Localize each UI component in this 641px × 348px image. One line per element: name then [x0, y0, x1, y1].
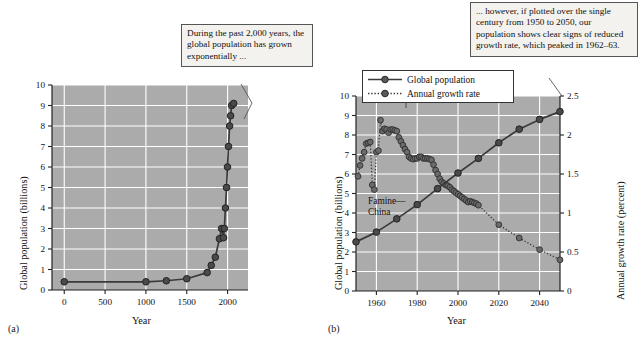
panel-a-y-tick: 2	[40, 244, 45, 254]
panel-b-growth-rate-point	[431, 162, 437, 168]
panel-b-population-point	[536, 116, 543, 123]
panel-b-population-point	[353, 239, 360, 246]
panel-a-y-tick: 0	[40, 285, 45, 295]
panel-a-x-tick: 1000	[137, 297, 156, 307]
panel-a-x-tick: 2000	[218, 297, 237, 307]
panel-a-data-point	[212, 254, 219, 261]
panel-b-x-tick: 2000	[449, 298, 468, 308]
panel-b-y-tick: 5	[344, 189, 349, 199]
panel-b-population-point	[475, 155, 482, 162]
panel-b-growth-rate-point	[496, 222, 502, 228]
panel-b-growth-rate-point	[476, 202, 482, 208]
panel-a-data-point	[227, 112, 234, 119]
callout-panel-a: During the past 2,000 years, the global …	[181, 24, 313, 67]
panel-a-axes: 0123456789100500100015002000	[36, 80, 248, 307]
panel-a-y-axis-title: Global population (billions)	[18, 176, 29, 290]
panel-b-growth-rate-point	[361, 149, 367, 155]
panel-a-y-tick: 1	[40, 265, 45, 275]
panel-b-y2-axis-title: Annual growth rate (percent)	[615, 181, 626, 300]
panel-a-y-tick: 6	[40, 162, 45, 172]
panel-b-population-point	[516, 126, 523, 133]
panel-b-y2-tick: 1	[567, 208, 572, 218]
panel-a-data-point	[204, 269, 211, 276]
panel-b-y-tick: 8	[344, 130, 349, 140]
panel-a-y-tick: 5	[40, 183, 45, 193]
panel-b-growth-rate-point	[537, 247, 543, 253]
famine-line-1: Famine—	[368, 196, 406, 206]
legend-swatch-dotted	[367, 87, 403, 100]
panel-a-data-point	[143, 279, 150, 286]
legend-item-global-population: Global population	[367, 72, 475, 87]
panel-a-x-tick: 500	[98, 297, 112, 307]
panel-b-y-tick: 9	[344, 111, 349, 121]
panel-a-x-tick: 1500	[178, 297, 197, 307]
panel-b-growth-rate-point	[357, 163, 363, 169]
panel-a-x-axis-title: Year	[132, 315, 151, 326]
legend-label-annual-growth-rate: Annual growth rate	[407, 89, 480, 99]
panel-a-y-tick: 10	[36, 80, 46, 90]
panel-a-y-tick: 3	[40, 224, 45, 234]
panel-b-population-point	[557, 108, 564, 115]
panel-b-y-tick: 0	[344, 286, 349, 296]
panel-b-growth-rate-point	[516, 235, 522, 241]
panel-b-y2-tick: 0	[567, 286, 572, 296]
legend-item-annual-growth-rate: Annual growth rate	[367, 86, 480, 101]
panel-b-growth-rate-point	[367, 139, 373, 145]
panel-a-x-tick: 0	[62, 297, 67, 307]
panel-b-growth-rate-point	[355, 173, 361, 179]
panel-b-growth-rate-point	[376, 148, 382, 154]
callout-panel-b: ... however, if plotted over the single …	[470, 2, 638, 57]
panel-a-label: (a)	[8, 323, 19, 334]
panel-b-growth-rate-point	[557, 257, 563, 263]
panel-a-data-point	[230, 100, 237, 107]
panel-a-data-point	[61, 279, 68, 286]
panel-b-population-point	[414, 201, 421, 208]
famine-china-annotation: Famine— China	[368, 196, 406, 218]
panel-a-y-tick: 9	[40, 101, 45, 111]
panel-b-population-point	[373, 229, 380, 236]
panel-b-x-tick: 1960	[367, 298, 386, 308]
legend-label-global-population: Global population	[407, 75, 475, 85]
panel-b-x-tick: 1980	[408, 298, 427, 308]
panel-b-growth-rate-point	[378, 117, 384, 123]
panel-a-data-point	[225, 143, 232, 150]
panel-b-y-axis-title: Global population (billions)	[333, 176, 344, 290]
population-figure: 0123456789100500100015002000 Global popu…	[0, 0, 641, 348]
panel-b-population-point	[496, 140, 503, 147]
panel-a-data-point	[183, 275, 190, 282]
panel-a-data-point	[223, 184, 230, 191]
panel-a-data-point	[221, 225, 228, 232]
famine-line-2: China	[368, 207, 390, 217]
panel-b-x-tick: 2040	[530, 298, 549, 308]
panel-a-data-point	[226, 123, 233, 130]
panel-a-data-point	[163, 277, 170, 284]
panel-b-y-tick: 1	[344, 267, 349, 277]
panel-a-data-point	[222, 205, 229, 212]
panel-b-label: (b)	[328, 323, 340, 334]
panel-b-legend: Global population Annual growth rate	[362, 70, 514, 103]
panel-b-x-axis-title: Year	[447, 315, 466, 326]
panel-b-y-tick: 7	[344, 150, 349, 160]
panel-b-growth-rate-point	[359, 156, 365, 162]
panel-a: 0123456789100500100015002000 Global popu…	[0, 0, 320, 348]
panel-b-population-point	[455, 170, 462, 177]
panel-b-y-tick: 3	[344, 228, 349, 238]
panel-b-growth-rate-point	[371, 187, 377, 193]
panel-b-y2-tick: 0.5	[567, 247, 579, 257]
panel-a-data-point	[224, 164, 231, 171]
callout-b-leader-line	[549, 78, 562, 96]
panel-a-y-tick: 8	[40, 121, 45, 131]
panel-a-y-tick: 7	[40, 142, 45, 152]
panel-b-y2-tick: 2.5	[567, 91, 579, 101]
panel-b-population-point	[434, 185, 441, 192]
legend-swatch-solid	[367, 73, 403, 86]
panel-b-y-tick: 6	[344, 169, 349, 179]
panel-b-growth-rate-point	[394, 128, 400, 134]
panel-b-y2-tick: 1.5	[567, 169, 579, 179]
panel-b-y-tick: 10	[340, 91, 350, 101]
panel-b-y-tick: 2	[344, 247, 349, 257]
panel-b-y-tick: 4	[344, 208, 349, 218]
panel-a-data-point	[208, 262, 215, 269]
panel-a-y-tick: 4	[40, 203, 45, 213]
panel-a-data-point	[220, 234, 227, 241]
